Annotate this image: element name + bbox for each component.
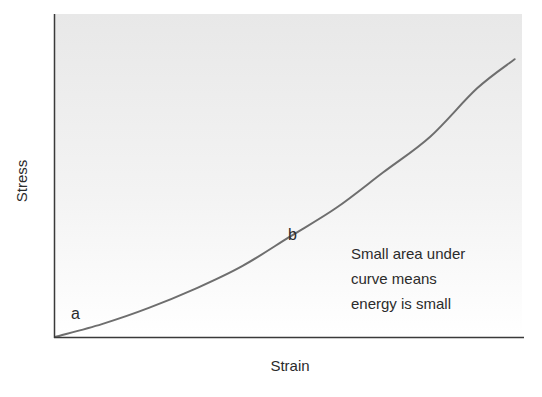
annotation-line: Small area under [351,241,511,266]
annotation-line: curve means [351,266,511,291]
y-axis-label: Stress [13,160,30,203]
point-label-b: b [288,226,297,244]
point-label-a: a [71,305,80,323]
x-axis-label: Strain [270,357,309,374]
annotation-line: energy is small [351,291,511,316]
annotation-text: Small area under curve means energy is s… [351,241,511,316]
stress-strain-chart [0,0,542,397]
